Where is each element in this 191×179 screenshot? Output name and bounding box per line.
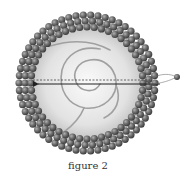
figure-caption: figure 2	[0, 160, 176, 171]
liposome-diagram	[0, 0, 191, 179]
